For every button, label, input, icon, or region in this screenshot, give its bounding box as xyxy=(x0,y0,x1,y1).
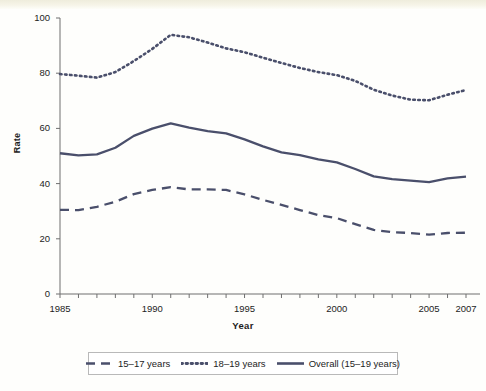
series-line xyxy=(60,187,466,234)
data-series-group xyxy=(60,35,466,235)
chart-page: 020406080100 198519901995200020052007 Ra… xyxy=(0,0,486,391)
legend-item[interactable]: 15–17 years xyxy=(86,358,170,369)
y-tick-label: 80 xyxy=(24,67,50,78)
y-tick-label: 20 xyxy=(24,233,50,244)
y-axis-title: Rate xyxy=(12,128,22,158)
legend-label: 15–17 years xyxy=(118,358,170,369)
x-tick-label: 2005 xyxy=(409,303,449,314)
line-chart-svg xyxy=(0,0,486,345)
series-line xyxy=(60,35,466,100)
legend-swatch-dotted xyxy=(181,359,208,368)
y-tick-label: 40 xyxy=(24,178,50,189)
chart-plot-area: 020406080100 198519901995200020052007 Ra… xyxy=(0,0,486,345)
legend-label: 18–19 years xyxy=(213,358,265,369)
y-tick-label: 0 xyxy=(24,288,50,299)
axis-ticks xyxy=(56,18,466,298)
legend-swatch-dashed xyxy=(86,359,113,368)
x-tick-label: 2000 xyxy=(317,303,357,314)
y-tick-label: 100 xyxy=(24,12,50,23)
legend-label: Overall (15–19 years) xyxy=(309,358,400,369)
x-tick-label: 1995 xyxy=(225,303,265,314)
x-tick-label: 1990 xyxy=(132,303,172,314)
chart-legend: 15–17 years18–19 yearsOverall (15–19 yea… xyxy=(88,352,398,375)
x-tick-label: 2007 xyxy=(446,303,486,314)
y-tick-label: 60 xyxy=(24,122,50,133)
legend-item[interactable]: 18–19 years xyxy=(181,358,265,369)
x-tick-label: 1985 xyxy=(40,303,80,314)
legend-swatch-solid xyxy=(277,359,304,368)
series-line xyxy=(60,123,466,182)
legend-item[interactable]: Overall (15–19 years) xyxy=(277,358,400,369)
x-axis-title: Year xyxy=(0,320,486,331)
